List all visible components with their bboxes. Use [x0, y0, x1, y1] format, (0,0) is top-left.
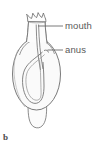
body-oval-shape — [13, 38, 61, 110]
label-anus: anus — [65, 45, 86, 55]
label-mouth: mouth — [65, 21, 92, 31]
figure-panel: mouth anus b — [0, 0, 106, 148]
tentacle-crown-shape — [27, 13, 46, 22]
figure-caption: b — [3, 132, 8, 142]
